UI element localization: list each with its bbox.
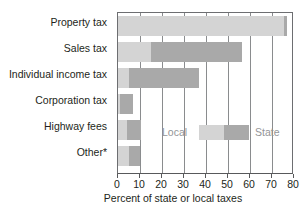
category-label-individual-income-tax: Individual income tax — [0, 69, 107, 80]
bar-segment-state — [129, 68, 199, 88]
x-tick-label-10: 10 — [133, 178, 145, 190]
bar-row — [118, 146, 294, 166]
legend-label-state: State — [255, 125, 280, 140]
x-tick-label-80: 80 — [287, 178, 299, 190]
legend-swatch-local — [199, 125, 224, 140]
bar-segment-local — [118, 68, 129, 88]
category-label-property-tax: Property tax — [0, 17, 107, 28]
x-tick-label-60: 60 — [243, 178, 255, 190]
x-axis-title: Percent of state or local taxes — [0, 192, 306, 204]
x-tick-label-40: 40 — [199, 178, 211, 190]
chart-legend: Local State — [162, 125, 294, 140]
category-label-highway-fees: Highway fees — [0, 121, 107, 132]
x-tick-label-70: 70 — [265, 178, 277, 190]
bar-segment-local — [118, 120, 127, 140]
x-tick-label-0: 0 — [114, 178, 120, 190]
bar-segment-state — [284, 16, 287, 36]
category-label-sales-tax: Sales tax — [0, 43, 107, 54]
bar-segment-state — [151, 42, 242, 62]
category-label-other: Other* — [0, 147, 107, 158]
stacked-bar-chart: Property tax Sales tax Individual income… — [0, 0, 306, 213]
bar-row — [118, 94, 294, 114]
bar-segment-state — [129, 146, 140, 166]
category-label-corporation-tax: Corporation tax — [0, 95, 107, 106]
bar-segment-state — [127, 120, 141, 140]
legend-label-local: Local — [162, 125, 187, 140]
bar-row — [118, 16, 294, 36]
legend-swatch-state — [224, 125, 249, 140]
bar-segment-local — [118, 16, 284, 36]
x-tick-label-50: 50 — [221, 178, 233, 190]
bar-segment-local — [118, 42, 151, 62]
plot-area: Local State — [117, 12, 293, 174]
x-axis-ticks: 01020304050607080 — [117, 174, 293, 188]
bar-segment-state — [120, 94, 133, 114]
x-tick-label-30: 30 — [177, 178, 189, 190]
x-tick-label-20: 20 — [155, 178, 167, 190]
category-axis-labels: Property tax Sales tax Individual income… — [0, 12, 112, 174]
bar-segment-local — [118, 146, 129, 166]
bar-row — [118, 42, 294, 62]
bar-row — [118, 68, 294, 88]
